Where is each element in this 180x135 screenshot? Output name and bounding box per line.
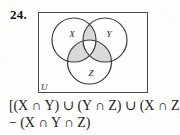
set-label-y: Y [103, 29, 115, 39]
set-label-x: X [66, 29, 78, 39]
venn-diagram-svg [38, 12, 148, 93]
problem-number: 24. [10, 8, 27, 22]
expression-line-2: − (X ∩ Y ∩ Z) [9, 114, 180, 131]
expression-line-1: [(X ∩ Y) ∪ (Y ∩ Z) ∪ (X ∩ Z)] [9, 97, 180, 114]
venn-diagram-figure: 24. [0, 0, 180, 135]
set-label-z: Z [85, 68, 97, 78]
set-expression: [(X ∩ Y) ∪ (Y ∩ Z) ∪ (X ∩ Z)] − (X ∩ Y ∩… [9, 97, 180, 131]
universe-label: U [41, 82, 48, 92]
